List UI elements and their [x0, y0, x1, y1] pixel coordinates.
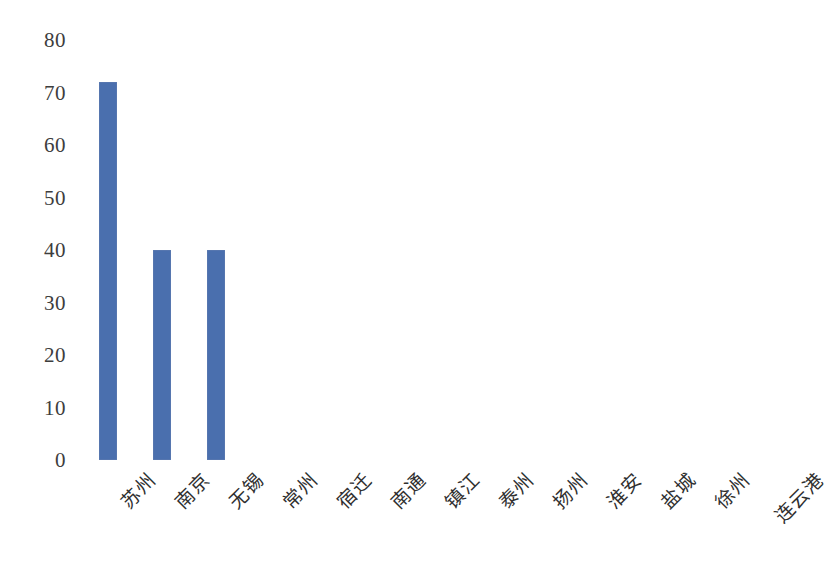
y-axis-tick-label: 40 [44, 240, 66, 261]
x-axis-tick: 淮安 [567, 466, 621, 575]
x-axis-tick: 徐州 [675, 466, 729, 575]
bar-slot [513, 34, 567, 466]
y-axis-tick-label: 20 [44, 345, 66, 366]
y-axis: 01020304050607080 [0, 0, 80, 575]
bar-slot [729, 34, 783, 466]
bar-slot [567, 34, 621, 466]
bar[interactable] [153, 250, 171, 460]
x-axis-tick: 宿迁 [297, 466, 351, 575]
x-axis-tick: 盐城 [621, 466, 675, 575]
bar-slot [135, 34, 189, 466]
x-axis: 苏州南京无锡常州宿迁南通镇江泰州扬州淮安盐城徐州连云港 [80, 466, 792, 575]
bar[interactable] [207, 250, 225, 460]
x-axis-tick: 南京 [135, 466, 189, 575]
y-axis-tick-label: 60 [44, 135, 66, 156]
y-axis-tick-label: 70 [44, 82, 66, 103]
y-axis-tick-label: 0 [55, 450, 66, 471]
x-axis-tick: 扬州 [513, 466, 567, 575]
x-axis-tick: 泰州 [459, 466, 513, 575]
x-axis-tick-label: 连云港 [772, 470, 828, 527]
bar[interactable] [99, 82, 117, 460]
x-axis-tick: 无锡 [189, 466, 243, 575]
x-axis-tick: 连云港 [729, 466, 783, 575]
bar-slot [297, 34, 351, 466]
y-axis-tick-label: 50 [44, 187, 66, 208]
plot-area [80, 34, 792, 466]
bar-slot [351, 34, 405, 466]
bar-slot [621, 34, 675, 466]
bar-slot [81, 34, 135, 466]
y-axis-tick-label: 10 [44, 397, 66, 418]
x-axis-tick: 苏州 [81, 466, 135, 575]
x-axis-tick: 镇江 [405, 466, 459, 575]
bar-slot [189, 34, 243, 466]
bars-layer [80, 34, 792, 466]
x-axis-tick: 常州 [243, 466, 297, 575]
x-axis-tick: 南通 [351, 466, 405, 575]
y-axis-tick-label: 80 [44, 30, 66, 51]
bar-slot [405, 34, 459, 466]
y-axis-tick-label: 30 [44, 292, 66, 313]
bar-slot [459, 34, 513, 466]
bar-slot [243, 34, 297, 466]
bar-slot [675, 34, 729, 466]
